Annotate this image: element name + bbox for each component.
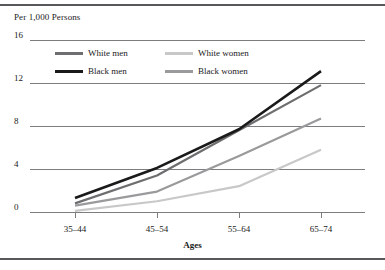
series-line <box>75 118 321 205</box>
legend-swatch-icon <box>55 52 83 55</box>
legend-item: Black women <box>165 66 285 76</box>
plot-area: 0481216 35–4445–5455–6465–74 <box>0 0 385 270</box>
x-axis-title: Ages <box>0 240 385 250</box>
legend-item: White women <box>165 48 285 58</box>
legend-swatch-icon <box>165 52 193 55</box>
legend-label: White men <box>88 48 128 58</box>
legend-swatch-icon <box>55 70 83 73</box>
series-lines <box>0 0 385 270</box>
chart-legend: White menWhite womenBlack menBlack women <box>55 44 285 80</box>
legend-swatch-icon <box>165 70 193 73</box>
series-line <box>75 150 321 211</box>
legend-item: Black men <box>55 66 165 76</box>
legend-label: Black men <box>88 66 127 76</box>
legend-item: White men <box>55 48 165 58</box>
chart-figure: Per 1,000 Persons 0481216 35–4445–5455–6… <box>0 0 385 270</box>
legend-label: Black women <box>198 66 248 76</box>
legend-label: White women <box>198 48 249 58</box>
